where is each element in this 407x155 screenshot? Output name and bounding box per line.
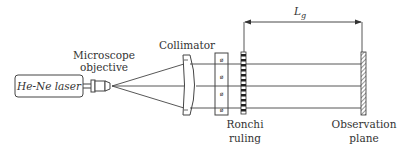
optical-setup-diagram: He-Ne laser Microscope objective Collima… <box>0 0 407 155</box>
observation-label-line1: Observation <box>332 118 397 130</box>
svg-text:ø: ø <box>220 73 224 80</box>
dimension-symbol: Lg <box>293 5 306 20</box>
collimator: Collimator <box>159 39 216 115</box>
dimension-lg: Lg <box>244 5 362 52</box>
svg-text:ø: ø <box>220 106 224 113</box>
ronchi-ruling: Ronchi ruling <box>227 52 265 144</box>
glass-plate: ø ø ø ø <box>215 53 228 115</box>
svg-text:ø: ø <box>220 90 224 97</box>
laser-label: He-Ne laser <box>16 80 82 92</box>
svg-text:ø: ø <box>220 56 224 63</box>
laser: He-Ne laser <box>15 75 83 97</box>
ronchi-label-line1: Ronchi <box>227 118 265 130</box>
collimator-label: Collimator <box>159 39 216 51</box>
ronchi-label-line2: ruling <box>229 132 261 144</box>
objective-label-line2: objective <box>80 61 128 73</box>
observation-label-line2: plane <box>349 132 378 144</box>
observation-plane: Observation plane <box>332 52 397 144</box>
objective-label-line1: Microscope <box>73 49 135 61</box>
